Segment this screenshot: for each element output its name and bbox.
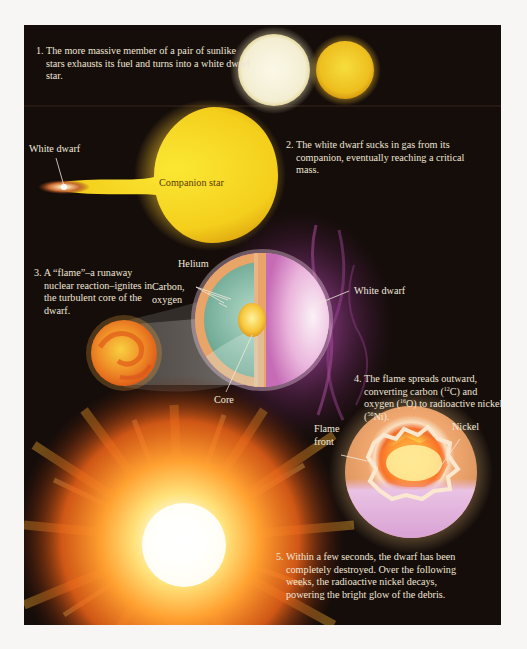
companion-star-label: Companion star: [159, 177, 224, 190]
illustration-panel: 1. The more massive member of a pair of …: [24, 25, 501, 625]
step-4-caption: 4. The flame spreads outward, converting…: [354, 373, 501, 423]
step-5-caption: 5. Within a few seconds, the dwarf has b…: [276, 551, 461, 601]
step-3-caption: 3. A “flame”–a runaway nuclear reaction–…: [34, 267, 156, 317]
illustration-art: [24, 25, 501, 625]
nickel-label: Nickel: [452, 421, 479, 434]
carbon-oxygen-label-line1: Carbon,: [152, 281, 185, 294]
white-dwarf-label-right: White dwarf: [354, 285, 405, 298]
flame-front-label-line1: Flame: [314, 423, 339, 436]
carbon-oxygen-label-line2: oxygen: [152, 294, 182, 307]
step-1-caption: 1. The more massive member of a pair of …: [36, 45, 256, 83]
step-2-caption: 2. The white dwarf sucks in gas from its…: [286, 139, 471, 177]
white-dwarf-label-top: White dwarf: [29, 143, 80, 156]
helium-label: Helium: [178, 258, 209, 271]
flame-front-label-line2: front: [314, 436, 334, 449]
core-label: Core: [214, 394, 234, 407]
